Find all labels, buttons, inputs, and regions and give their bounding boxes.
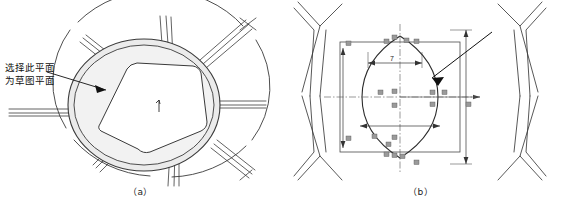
sketch-centerlines (324, 24, 480, 172)
annotation-select-plane: 选择此平面 为草图平面 (5, 62, 55, 88)
figure-sheet: 选择此平面 为草图平面 （a） (0, 0, 561, 213)
dimension-top-width: 7 (368, 52, 422, 68)
callout-arrow-b (432, 32, 492, 86)
dimension-left-height (341, 48, 346, 148)
figure-panel-b: 7 (280, 0, 561, 213)
dimension-value-7: 7 (390, 55, 394, 62)
figure-panel-a: 选择此平面 为草图平面 （a） (0, 0, 281, 213)
caption-a: （a） (0, 185, 281, 198)
wheel-hub-3d-drawing (0, 0, 281, 180)
caption-b: （b） (280, 185, 561, 198)
sketch-on-hub-drawing: 7 (280, 0, 561, 180)
diameter-dimension-leaders (400, 95, 480, 99)
sketch-constraint-markers (346, 35, 471, 165)
